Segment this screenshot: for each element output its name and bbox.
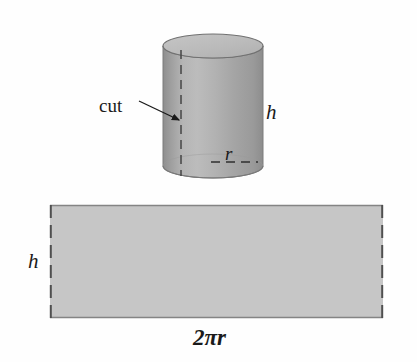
pi-glyph: π [205,325,218,350]
cylinder-height-label: h [266,102,277,123]
circumference-radius: r [217,325,226,350]
figure-canvas: cut h r h 2πr [0,0,417,362]
cylinder-unrolled-diagram [0,0,417,362]
unrolled-rectangle-group [50,205,383,318]
cylinder-group [139,34,263,178]
circumference-label: 2πr [193,326,226,349]
rectangle-height-label: h [28,251,39,272]
cylinder-body [163,46,263,178]
cylinder-top-cap [163,34,263,58]
unrolled-rectangle-fill [50,205,383,318]
radius-label: r [225,144,232,163]
circumference-coefficient: 2 [193,325,205,350]
cut-label: cut [99,96,122,115]
